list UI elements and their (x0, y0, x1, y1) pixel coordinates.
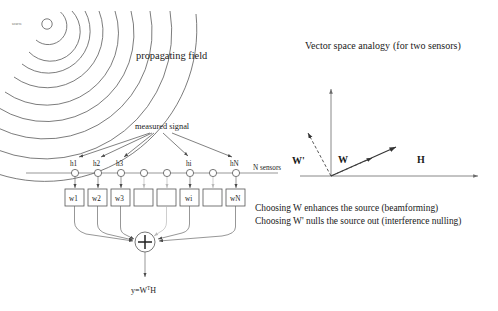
sensor-node[interactable] (232, 169, 239, 176)
output-base: y=W (131, 286, 148, 295)
sensor-node[interactable] (140, 169, 147, 176)
measured-signal-arrow (101, 133, 152, 157)
output-expression: y=WTH (131, 285, 156, 295)
measured-signal-label: measured signal (135, 122, 190, 131)
summing-wires-group (75, 206, 236, 241)
weight-box[interactable] (203, 189, 222, 206)
sensor-label-h2: h2 (93, 160, 101, 168)
measured-signal-arrow (172, 133, 232, 157)
measured-signal-group: measured signal (79, 122, 232, 157)
summer-group: y=WTH (131, 232, 156, 295)
weight-label-w2: w2 (92, 195, 101, 203)
sensor-node[interactable] (163, 169, 170, 176)
sensor-label-hi: hi (186, 160, 192, 168)
vector-W-prime-label: W' (292, 155, 305, 166)
sensor-node[interactable] (186, 169, 193, 176)
source-marker (42, 19, 52, 29)
captions-group: Choosing W enhances the source (beamform… (255, 203, 461, 227)
vector-space-panel: Vector space analogy (for two sensors) H… (292, 40, 478, 176)
sum-wire (98, 206, 134, 240)
measured-signal-arrow (163, 133, 188, 156)
weight-box[interactable] (157, 189, 176, 206)
sensor-label-hN: hN (230, 160, 240, 168)
sum-wire (75, 206, 134, 241)
vector-H-label: H (417, 154, 425, 165)
sum-wire (158, 206, 190, 239)
weight-label-wN: wN (230, 195, 241, 203)
sensor-array-group: h1 h2 h3 hi hN N sensors (26, 160, 281, 177)
sensor-node[interactable] (117, 169, 124, 176)
weight-boxes-group: w1 w2 w3 wi wN (65, 177, 245, 206)
sensor-label-h3: h3 (116, 160, 124, 168)
weight-label-w3: w3 (115, 195, 124, 203)
sensor-node[interactable] (209, 169, 216, 176)
caption-nulling: Choosing W' nulls the source out (interf… (255, 216, 461, 227)
sum-wire (154, 206, 167, 236)
sum-wire (121, 206, 135, 239)
vector-panel-subtitle: (for two sensors) (393, 40, 461, 52)
sensor-label-h1: h1 (70, 160, 78, 168)
output-tail: H (150, 286, 156, 295)
caption-beamforming: Choosing W enhances the source (beamform… (255, 203, 438, 214)
weight-label-w1: w1 (69, 195, 78, 203)
sensor-node[interactable] (71, 169, 78, 176)
weight-label-wi: wi (185, 195, 192, 203)
vector-W-prime (308, 133, 331, 176)
propagating-field-label: propagating field (136, 50, 208, 61)
vector-W-label: W (338, 154, 348, 165)
weight-box[interactable] (134, 189, 153, 206)
source-label: source (12, 22, 22, 26)
n-sensors-label: N sensors (253, 164, 281, 172)
sensor-node[interactable] (94, 169, 101, 176)
figure-canvas: source propagating field measured signal… (0, 0, 498, 311)
vector-panel-title: Vector space analogy (305, 40, 390, 51)
wavefront-arcs (0, 11, 197, 181)
diagram-svg: source propagating field measured signal… (0, 0, 498, 311)
